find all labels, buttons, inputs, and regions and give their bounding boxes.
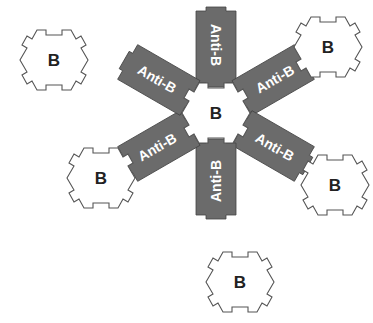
antigen-label: B (329, 176, 341, 195)
antigen-bottom: B (206, 252, 274, 312)
antigen-label: B (95, 169, 107, 188)
antibody-label: Anti-B (208, 160, 224, 202)
antigen-upper-right: B (294, 17, 362, 77)
antibody-label: Anti-B (208, 24, 224, 66)
center-antigen: B (182, 83, 250, 143)
antigen-label: B (210, 104, 222, 123)
antigen-label: B (234, 273, 246, 292)
antigen-right: B (301, 155, 369, 215)
antigen-top-left: B (20, 30, 88, 90)
antibody-arm-up: Anti-B (196, 7, 236, 87)
agglutination-diagram: Anti-B Anti-B Anti-B Anti-B Anti-B Anti-… (0, 0, 373, 323)
antigen-left: B (67, 148, 135, 208)
antigen-label: B (322, 38, 334, 57)
antigen-label: B (48, 51, 60, 70)
antibody-arm-down: Anti-B (196, 139, 236, 219)
